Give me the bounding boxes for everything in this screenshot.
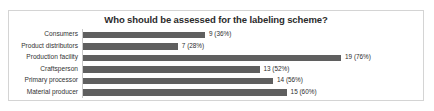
bar-material-producer bbox=[83, 89, 287, 96]
bar-row: Material producer 15 (60%) bbox=[9, 87, 423, 99]
category-label: Craftsperson bbox=[9, 65, 78, 73]
bar-row: Production facility 19 (76%) bbox=[9, 52, 423, 64]
bar-row: Craftsperson 13 (52%) bbox=[9, 64, 423, 76]
bar-primary-processor bbox=[83, 78, 273, 85]
chart-title: Who should be assessed for the labeling … bbox=[9, 14, 423, 25]
bar-value-label: 13 (52%) bbox=[263, 65, 289, 73]
bar-consumers bbox=[83, 32, 205, 39]
category-label: Primary processor bbox=[9, 76, 78, 84]
category-label: Material producer bbox=[9, 88, 78, 96]
bar-value-label: 9 (36%) bbox=[209, 30, 231, 38]
bar-row: Product distributors 7 (28%) bbox=[9, 41, 423, 53]
bar-value-label: 7 (28%) bbox=[182, 42, 204, 50]
bar-value-label: 15 (60%) bbox=[291, 88, 317, 96]
category-label: Production facility bbox=[9, 53, 78, 61]
bar-row: Consumers 9 (36%) bbox=[9, 29, 423, 41]
bar-craftsperson bbox=[83, 66, 260, 73]
category-label: Consumers bbox=[9, 30, 78, 38]
category-label: Product distributors bbox=[9, 42, 78, 50]
bar-production-facility bbox=[83, 55, 341, 62]
bar-product-distributors bbox=[83, 43, 178, 50]
bar-value-label: 19 (76%) bbox=[345, 53, 371, 61]
plot-area: Consumers 9 (36%) Product distributors 7… bbox=[9, 29, 423, 97]
bar-value-label: 14 (56%) bbox=[277, 76, 303, 84]
chart-frame: Who should be assessed for the labeling … bbox=[8, 10, 424, 101]
bar-row: Primary processor 14 (56%) bbox=[9, 75, 423, 87]
